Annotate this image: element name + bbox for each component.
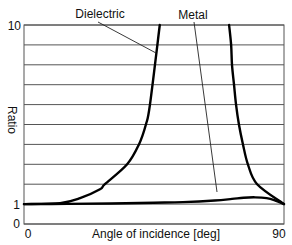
dielectric-curve [229, 25, 284, 204]
dielectric-leader-line [98, 22, 156, 53]
x-tick-0: 0 [25, 227, 32, 241]
x-tick-90: 90 [272, 227, 286, 241]
x-axis-label: Angle of incidence [deg] [92, 227, 220, 241]
dielectric-curve [24, 25, 160, 204]
metal-curve [24, 197, 284, 204]
chart-svg: Dielectric Metal 10 1 0 0 90 Angle of in… [0, 0, 292, 245]
y-tick-1: 1 [13, 198, 20, 212]
y-tick-10: 10 [8, 19, 22, 33]
dielectric-label: Dielectric [75, 7, 124, 21]
gridlines [24, 25, 284, 224]
metal-label: Metal [178, 8, 207, 22]
y-tick-0: 0 [13, 217, 20, 231]
chart-figure: Dielectric Metal 10 1 0 0 90 Angle of in… [0, 0, 292, 245]
y-axis-label: Ratio [5, 106, 19, 134]
metal-leader-line [194, 22, 217, 192]
